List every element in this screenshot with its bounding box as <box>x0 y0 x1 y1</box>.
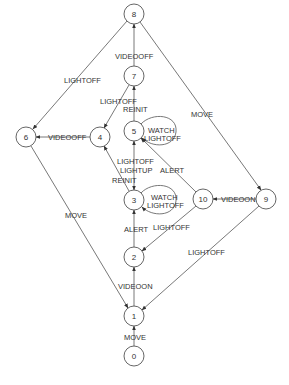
label-edge-10-2: LIGHTOFF <box>153 223 190 232</box>
edge-9-to-1 <box>142 206 259 310</box>
label-edge-1-2: VIDEOON <box>118 282 153 291</box>
label-edge-5-3-lightoff: LIGHTOFF <box>117 157 154 166</box>
node-label-1: 1 <box>132 312 137 321</box>
label-edge-7-4: LIGHTOFF <box>100 97 137 106</box>
edge-labels: MOVE VIDEOON ALERT LIGHTOFF LIGHTOFF VID… <box>48 52 256 342</box>
state-node-8[interactable]: 8 <box>124 4 144 24</box>
state-node-9[interactable]: 9 <box>256 189 276 209</box>
node-label-6: 6 <box>24 133 29 142</box>
state-node-0[interactable]: 0 <box>124 346 144 366</box>
node-label-2: 2 <box>132 253 137 262</box>
label-edge-4-6: VIDEOOFF <box>48 133 87 142</box>
state-node-10[interactable]: 10 <box>193 189 213 209</box>
label-self-loop-5-lightoff: LIGHTOFF <box>144 134 181 143</box>
node-label-5: 5 <box>132 127 137 136</box>
label-edge-0-1: MOVE <box>124 333 146 342</box>
node-label-4: 4 <box>98 133 103 142</box>
state-node-3[interactable]: 3 <box>124 190 144 210</box>
label-self-loop-3-lightoff: LIGHTOFF <box>147 201 184 210</box>
node-label-9: 9 <box>264 195 269 204</box>
state-node-6[interactable]: 6 <box>16 127 36 147</box>
label-edge-5-7: REINIT <box>123 105 148 114</box>
label-edge-5-3-lightup: LIGHTUP <box>120 166 153 175</box>
state-node-4[interactable]: 4 <box>90 127 110 147</box>
node-label-0: 0 <box>132 352 137 361</box>
edges <box>31 21 261 347</box>
state-node-1[interactable]: 1 <box>124 306 144 326</box>
label-edge-9-10: VIDEOON <box>221 195 256 204</box>
state-diagram: MOVE VIDEOON ALERT LIGHTOFF LIGHTOFF VID… <box>0 0 289 385</box>
node-label-8: 8 <box>132 10 137 19</box>
label-edge-3-4: REINIT <box>112 176 137 185</box>
edge-6-to-1 <box>31 146 128 308</box>
node-label-10: 10 <box>199 195 208 204</box>
label-edge-8-9: MOVE <box>191 110 213 119</box>
edge-8-to-9 <box>140 22 261 190</box>
label-edge-2-3: ALERT <box>124 225 148 234</box>
state-node-7[interactable]: 7 <box>124 66 144 86</box>
state-node-2[interactable]: 2 <box>124 247 144 267</box>
state-node-5[interactable]: 5 <box>124 121 144 141</box>
node-label-3: 3 <box>132 196 137 205</box>
label-edge-8-6: LIGHTOFF <box>64 76 101 85</box>
label-edge-7-8: VIDEOOFF <box>115 52 154 61</box>
label-edge-6-1: MOVE <box>65 211 87 220</box>
label-edge-10-5: ALERT <box>160 166 184 175</box>
label-edge-9-1: LIGHTOFF <box>188 248 225 257</box>
node-label-7: 7 <box>132 72 137 81</box>
